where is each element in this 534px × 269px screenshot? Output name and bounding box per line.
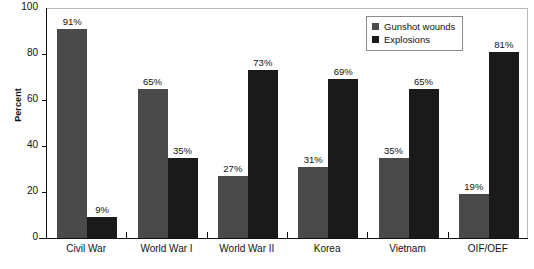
y-axis-tick-label: 40 [27,139,38,150]
bar-value-label: 19% [464,181,483,192]
y-axis-tick-label: 60 [27,93,38,104]
y-axis-tick-label: 100 [21,1,38,12]
bar: 31% [298,167,328,238]
legend-item-label: Explosions [384,34,430,45]
x-axis-line [39,238,528,239]
bar-value-label: 73% [253,57,272,68]
y-axis-tick-label: 80 [27,47,38,58]
bar-value-label: 35% [173,145,192,156]
bar-value-label: 91% [63,16,82,27]
x-axis-category-label: Vietnam [389,243,426,254]
bar-chart: Percent 020406080100 91%9%65%35%27%73%31… [0,0,534,269]
bar-value-label: 65% [143,76,162,87]
x-axis-tick-mark [287,232,288,238]
bar: 27% [218,176,248,238]
legend-item-label: Gunshot wounds [384,21,455,32]
bar-value-label: 27% [223,163,242,174]
legend-item: Explosions [372,33,455,46]
bar: 73% [248,70,278,238]
x-axis-tick-mark [207,232,208,238]
x-axis-tick-mark [448,232,449,238]
y-axis-title: Percent [13,65,23,145]
x-axis-category-label: World War I [140,243,192,254]
x-axis-category-label: OIF/OEF [468,243,508,254]
y-axis-tick-label: 0 [32,231,38,242]
chart-legend: Gunshot woundsExplosions [366,16,463,51]
bar: 9% [87,217,117,238]
legend-item: Gunshot wounds [372,20,455,33]
bar: 35% [168,158,198,239]
x-axis-category-label: Korea [314,243,341,254]
x-axis-category-label: Civil War [66,243,106,254]
bar: 65% [138,89,168,239]
legend-swatch-icon [372,36,379,43]
bar: 35% [379,158,409,239]
bar-value-label: 81% [494,39,513,50]
x-axis-tick-mark [126,232,127,238]
bar-value-label: 35% [384,145,403,156]
y-axis-line [46,8,47,239]
x-axis-tick-mark [367,232,368,238]
legend-swatch-icon [372,23,379,30]
x-axis-category-label: World War II [219,243,274,254]
bar: 81% [489,52,519,238]
bar-value-label: 31% [304,154,323,165]
bar-value-label: 69% [334,66,353,77]
bar: 19% [459,194,489,238]
bar: 69% [328,79,358,238]
bar: 91% [57,29,87,238]
bar: 65% [409,89,439,239]
y-axis-tick-label: 20 [27,185,38,196]
bar-value-label: 9% [95,204,109,215]
bar-value-label: 65% [414,76,433,87]
